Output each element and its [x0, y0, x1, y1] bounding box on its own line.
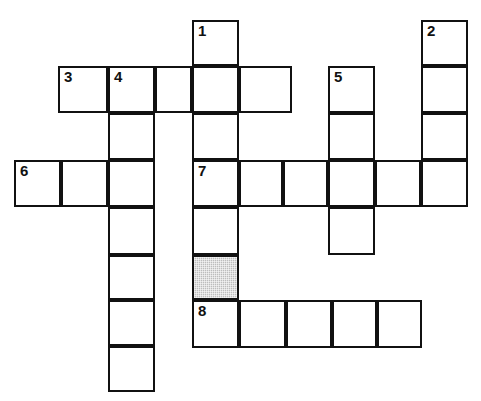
crossword-cell[interactable]: [286, 300, 332, 348]
crossword-cell-4[interactable]: 4: [108, 66, 155, 113]
crossword-cell[interactable]: [61, 160, 108, 207]
crossword-cell[interactable]: [377, 300, 422, 348]
crossword-grid: 12345678: [0, 0, 481, 401]
crossword-cell-3[interactable]: 3: [58, 66, 108, 113]
crossword-cell-1[interactable]: 1: [192, 20, 239, 66]
crossword-cell[interactable]: [328, 113, 375, 160]
crossword-cell[interactable]: [192, 207, 239, 255]
cell-number-7: 7: [198, 163, 206, 179]
cell-number-4: 4: [114, 69, 122, 85]
crossword-cell[interactable]: [108, 300, 155, 346]
crossword-cell[interactable]: [108, 255, 155, 300]
crossword-cell[interactable]: [155, 66, 192, 113]
crossword-cell[interactable]: [108, 113, 155, 160]
crossword-cell[interactable]: [421, 113, 468, 160]
crossword-cell-6[interactable]: 6: [14, 160, 61, 207]
crossword-cell[interactable]: [421, 160, 468, 207]
crossword-cell[interactable]: [108, 207, 155, 255]
cell-number-2: 2: [427, 23, 435, 39]
crossword-cell[interactable]: [283, 160, 328, 207]
crossword-cell[interactable]: [108, 160, 155, 207]
crossword-cell-8[interactable]: 8: [192, 300, 239, 348]
crossword-cell[interactable]: [192, 113, 239, 160]
cell-number-3: 3: [64, 69, 72, 85]
cell-number-8: 8: [198, 303, 206, 319]
crossword-cell[interactable]: [328, 207, 375, 255]
crossword-cell-5[interactable]: 5: [328, 66, 375, 113]
crossword-cell[interactable]: [375, 160, 421, 207]
crossword-cell[interactable]: [108, 346, 155, 392]
cell-number-5: 5: [334, 69, 342, 85]
cell-number-1: 1: [198, 23, 206, 39]
crossword-cell[interactable]: [192, 66, 239, 113]
crossword-cell[interactable]: [239, 160, 283, 207]
crossword-cell[interactable]: [192, 255, 239, 300]
crossword-cell[interactable]: [421, 66, 468, 113]
cell-number-6: 6: [20, 163, 28, 179]
crossword-cell[interactable]: [328, 160, 375, 207]
crossword-cell[interactable]: [239, 300, 286, 348]
crossword-cell[interactable]: [239, 66, 292, 113]
crossword-cell-2[interactable]: 2: [421, 20, 468, 66]
crossword-cell-7[interactable]: 7: [192, 160, 239, 207]
crossword-cell[interactable]: [332, 300, 377, 348]
